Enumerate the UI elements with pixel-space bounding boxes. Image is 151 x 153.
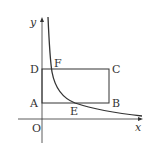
y-axis-label: y <box>29 16 37 29</box>
diagram: y x O D F C A B E <box>0 0 151 153</box>
x-axis <box>18 117 143 121</box>
point-label-b: B <box>112 97 120 110</box>
point-label-c: C <box>112 63 120 76</box>
x-axis-label: x <box>135 121 142 134</box>
point-label-e: E <box>70 105 78 118</box>
origin-label: O <box>32 122 41 135</box>
curve <box>48 17 142 116</box>
point-label-f: F <box>54 57 62 70</box>
point-label-d: D <box>30 63 39 76</box>
point-label-a: A <box>29 97 39 110</box>
y-axis-arrow-icon <box>40 17 44 22</box>
